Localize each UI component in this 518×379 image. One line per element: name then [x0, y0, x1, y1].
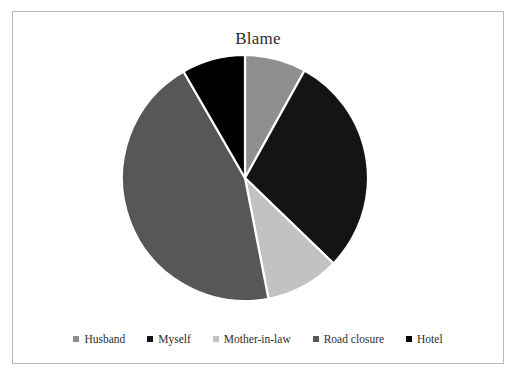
plot-area	[13, 12, 505, 365]
pie-slice-group	[122, 55, 368, 301]
chart-frame: Blame HusbandMyselfMother-in-lawRoad clo…	[12, 11, 504, 364]
legend-item[interactable]: Myself	[147, 334, 191, 346]
legend-item[interactable]: Hotel	[406, 334, 443, 346]
legend-square-marker-icon	[406, 336, 412, 342]
legend-item[interactable]: Road closure	[313, 334, 384, 346]
legend-item-label: Mother-in-law	[224, 334, 291, 346]
legend-item-label: Hotel	[417, 334, 443, 346]
pie-chart	[120, 53, 370, 303]
legend-square-marker-icon	[213, 336, 219, 342]
legend-item[interactable]: Mother-in-law	[213, 334, 291, 346]
legend-item-label: Husband	[84, 334, 125, 346]
legend-item-label: Myself	[158, 334, 191, 346]
chart-legend: HusbandMyselfMother-in-lawRoad closureHo…	[13, 334, 503, 346]
legend-item[interactable]: Husband	[73, 334, 125, 346]
legend-square-marker-icon	[313, 336, 319, 342]
legend-item-label: Road closure	[324, 334, 384, 346]
legend-square-marker-icon	[147, 336, 153, 342]
legend-square-marker-icon	[73, 336, 79, 342]
